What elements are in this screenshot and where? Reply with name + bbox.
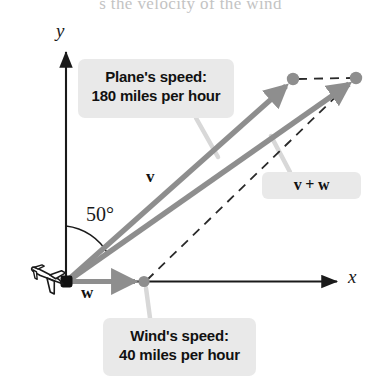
dashed-top-line [298, 78, 350, 79]
endpoint-dot-v-plus-w [350, 72, 362, 84]
vector-label-w: w [81, 283, 93, 303]
callout-wind-speed: Wind's speed: 40 miles per hour [103, 318, 256, 376]
callout-plane-speed-line2: 180 miles per hour [78, 86, 234, 105]
origin-dot [61, 276, 73, 288]
callout-plane-speed-line1: Plane's speed: [105, 68, 207, 85]
callout-wind-speed-line1: Wind's speed: [130, 327, 228, 344]
callout-resultant-text: v + w [294, 176, 330, 193]
y-axis-label: y [56, 20, 64, 42]
callout-resultant-label: v + w [262, 172, 361, 199]
angle-label-50-degrees: 50° [86, 203, 114, 226]
vector-label-v: v [146, 167, 155, 187]
callout-plane-speed: Plane's speed: 180 miles per hour [78, 59, 234, 118]
figure-canvas: s the velocity of the wind [0, 0, 381, 382]
endpoint-dot-v [287, 73, 299, 85]
x-axis-label: x [348, 266, 356, 288]
endpoint-dot-w [138, 276, 149, 287]
callout-wind-speed-line2: 40 miles per hour [103, 345, 256, 364]
